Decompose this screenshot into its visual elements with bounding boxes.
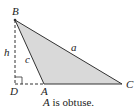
label-h: h	[4, 46, 10, 58]
vertex-b-dot	[14, 19, 17, 22]
label-b: B	[12, 5, 19, 17]
obtuse-triangle-diagram: B D A C h c a A is obtuse.	[0, 0, 137, 109]
right-angle-marker	[15, 77, 22, 84]
label-c: C	[126, 78, 134, 90]
label-side-c: c	[25, 53, 30, 65]
triangle-abc	[15, 20, 122, 84]
label-d: D	[9, 85, 18, 97]
label-side-a: a	[71, 41, 77, 53]
caption: A is obtuse.	[42, 96, 94, 108]
